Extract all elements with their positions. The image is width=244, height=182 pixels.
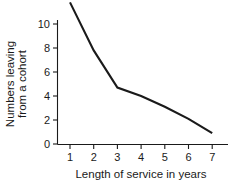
y-tick-label-4: 4 (44, 90, 50, 102)
x-tick-label-1: 1 (67, 151, 73, 163)
y-tick-label-6: 6 (44, 66, 50, 78)
y-axis-title-line2: from a cohort (16, 49, 28, 118)
line-chart-figure: 10 8 6 4 2 0 1 2 3 4 5 6 7 Lengt (0, 0, 244, 182)
x-tick-label-7: 7 (209, 151, 215, 163)
data-series-line (70, 2, 212, 133)
x-tick-label-2: 2 (91, 151, 97, 163)
x-axis-tick-labels: 1 2 3 4 5 6 7 (67, 151, 215, 163)
chart-canvas: 10 8 6 4 2 0 1 2 3 4 5 6 7 Lengt (0, 0, 244, 182)
x-tick-label-5: 5 (162, 151, 168, 163)
y-tick-label-0: 0 (44, 138, 50, 150)
y-axis-title-line1: Numbers leaving (4, 41, 16, 127)
x-axis-ticks (70, 145, 212, 150)
x-tick-label-6: 6 (185, 151, 191, 163)
y-axis-title: Numbers leaving from a cohort (4, 41, 28, 127)
x-axis-title: Length of service in years (75, 168, 206, 180)
y-tick-label-2: 2 (44, 114, 50, 126)
x-tick-label-3: 3 (114, 151, 120, 163)
y-axis-tick-labels: 10 8 6 4 2 0 (38, 18, 50, 150)
y-tick-label-10: 10 (38, 18, 50, 30)
y-axis-ticks (53, 24, 58, 144)
y-tick-label-8: 8 (44, 42, 50, 54)
x-tick-label-4: 4 (138, 151, 144, 163)
